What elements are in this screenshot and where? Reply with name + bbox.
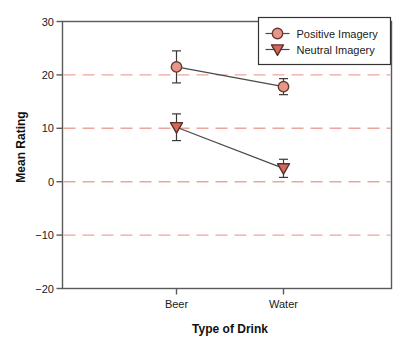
marker-circle-positive-imagery-beer xyxy=(171,62,181,72)
x-tick-label-water: Water xyxy=(269,298,298,310)
y-tick-label--20: −20 xyxy=(35,283,54,295)
legend-label-neutral-imagery: Neutral Imagery xyxy=(297,44,376,56)
legend-marker-positive-imagery xyxy=(272,28,282,38)
series-line-positive-imagery xyxy=(177,67,284,87)
y-axis-title: Mean Rating xyxy=(14,111,28,182)
legend-box xyxy=(259,18,391,65)
marker-triangle-down-neutral-imagery-water xyxy=(278,164,290,174)
chart-figure: 3020100−10−20BeerWaterPositive ImageryNe… xyxy=(0,0,412,353)
y-tick-label-30: 30 xyxy=(42,16,54,28)
y-tick-label-20: 20 xyxy=(42,69,54,81)
chart-svg: 3020100−10−20BeerWaterPositive ImageryNe… xyxy=(0,0,412,353)
x-axis-title: Type of Drink xyxy=(192,322,268,336)
y-tick-label-0: 0 xyxy=(48,176,54,188)
y-tick-label-10: 10 xyxy=(42,122,54,134)
legend-label-positive-imagery: Positive Imagery xyxy=(297,28,379,40)
marker-circle-positive-imagery-water xyxy=(278,81,288,91)
series-line-neutral-imagery xyxy=(177,127,284,168)
x-tick-label-beer: Beer xyxy=(165,298,189,310)
y-tick-label--10: −10 xyxy=(35,229,54,241)
